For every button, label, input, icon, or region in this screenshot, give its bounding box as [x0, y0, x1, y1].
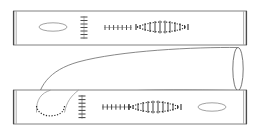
- pipe-intersection-diagram: [0, 0, 259, 126]
- lower-pipe-ellipse: [198, 103, 226, 111]
- branch-pipe-opening: [233, 48, 243, 91]
- diagram-canvas: [0, 0, 259, 126]
- upper-pipe-ellipse: [39, 23, 67, 31]
